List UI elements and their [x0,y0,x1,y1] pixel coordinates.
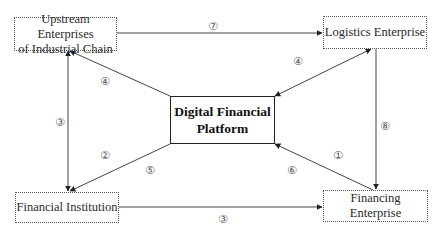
edge-platform-upstream [70,51,170,96]
edge-label-4-right: ④ [293,55,303,68]
edge-label-5: ⑤ [145,164,155,177]
node-logistics-enterprise: Logistics Enterprise [323,16,427,49]
node-upstream-line1: Upstream Enterprises [15,12,116,42]
edge-label-2: ② [100,149,110,162]
node-digital-financial-platform: Digital Financial Platform [170,96,275,144]
node-platform-line2: Platform [197,120,249,137]
node-financial-institution-label: Financial Institution [16,200,117,215]
edge-label-3-left: ③ [55,116,65,129]
edge-label-7: ⑦ [208,20,218,33]
edge-label-4-left: ④ [100,75,110,88]
node-upstream-line2: of Industrial Chain [18,42,112,57]
edge-label-3-bottom: ③ [218,213,228,226]
diagram-canvas: Upstream Enterprises of Industrial Chain… [0,0,441,237]
node-financing-enterprise: Financing Enterprise [323,190,428,222]
node-platform-line1: Digital Financial [174,103,270,120]
node-upstream-enterprises: Upstream Enterprises of Industrial Chain [14,17,117,51]
node-financial-institution: Financial Institution [15,192,119,223]
node-logistics-label: Logistics Enterprise [325,25,425,40]
edge-label-8: ⑧ [380,120,390,133]
node-financing-enterprise-label: Financing Enterprise [324,191,427,221]
edge-label-1: ① [333,149,343,162]
edge-label-6: ⑥ [287,164,297,177]
edge-platform-logistics [275,49,371,96]
